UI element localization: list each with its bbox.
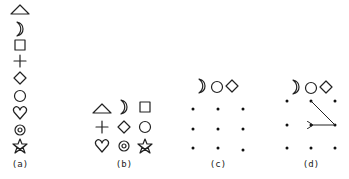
diamond-icon (14, 72, 26, 84)
circle-icon (140, 122, 151, 133)
bullseye-icon (15, 125, 25, 135)
bullseye-icon (119, 141, 129, 151)
circle-icon (306, 83, 317, 94)
plus-icon (14, 55, 26, 67)
crescent-moon-icon (293, 80, 299, 94)
panel-a-label: (a) (12, 159, 28, 169)
panel-d: (d) (286, 80, 337, 169)
crescent-moon-icon (121, 100, 127, 114)
square-icon (15, 40, 25, 50)
diamond-icon (226, 80, 238, 92)
panel-d-label: (d) (303, 159, 319, 169)
square-icon (140, 102, 150, 112)
diamond-icon (118, 121, 130, 133)
panel-b-label: (b) (116, 159, 132, 169)
panel-c-label: (c) (210, 159, 226, 169)
panel-c: (c) (192, 79, 245, 169)
figure: (a) (b) (c) (d) (0, 0, 349, 179)
path-arrow (311, 101, 335, 125)
circle-icon (212, 82, 223, 93)
crescent-moon-icon (199, 79, 205, 93)
diamond-icon (320, 81, 332, 93)
circle-icon (15, 91, 26, 102)
crescent-moon-icon (17, 22, 23, 36)
dot-grid (192, 108, 245, 152)
panel-b: (b) (93, 100, 152, 169)
panel-a: (a) (11, 5, 29, 169)
star-icon (13, 139, 27, 153)
triangle-icon (93, 104, 111, 113)
plus-icon (96, 121, 108, 133)
heart-icon (95, 140, 108, 152)
heart-icon (13, 107, 26, 119)
star-icon (138, 139, 152, 153)
triangle-icon (11, 5, 29, 14)
